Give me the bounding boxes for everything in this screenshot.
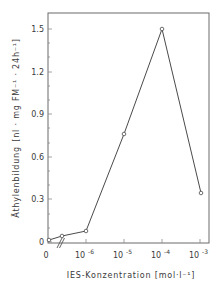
svg-text:10: 10: [189, 251, 199, 260]
data-point: [47, 238, 51, 242]
svg-text:10: 10: [113, 251, 123, 260]
y-axis-title: Äthylenbildung [nl · mg FM⁻¹ · 24h⁻¹]: [11, 38, 21, 217]
x-tick-labels: 0 10 -6 10 -5 10 -4 10 -3: [43, 248, 208, 260]
data-point: [84, 229, 88, 233]
y-tick-label: 0.9: [31, 110, 44, 119]
plot-frame: [48, 13, 209, 243]
y-axis-title-unit: [nl · mg FM⁻¹ · 24h⁻¹]: [12, 38, 21, 141]
data-point: [199, 191, 203, 195]
svg-text:10: 10: [151, 251, 161, 260]
x-tick-label: 10 -3: [189, 248, 208, 260]
data-point: [60, 234, 64, 238]
svg-text:10: 10: [75, 251, 85, 260]
y-tick-labels: 0 0.3 0.6 0.9 1.2 1.5: [31, 25, 44, 247]
data-markers: [47, 27, 203, 242]
y-tick-label: 1.5: [31, 25, 44, 34]
x-tick-label: 10 -6: [75, 248, 94, 260]
y-axis-ticks: [48, 29, 52, 242]
x-tick-label: 10 -5: [113, 248, 132, 260]
data-point: [160, 27, 164, 31]
x-tick-label: 0: [43, 251, 48, 260]
svg-text:-3: -3: [202, 248, 208, 255]
svg-text:-4: -4: [164, 248, 170, 255]
x-axis-title: IES-Konzentration [mol·l⁻¹]: [67, 271, 196, 280]
y-axis-title-main: Äthylenbildung: [11, 146, 21, 218]
line-chart: 0 0.3 0.6 0.9 1.2 1.5 0 10 -6 10 -5 10 -…: [0, 0, 221, 289]
x-axis-ticks: [86, 239, 200, 243]
svg-text:-6: -6: [88, 248, 94, 255]
x-tick-label: 10 -4: [151, 248, 170, 260]
y-tick-label: 0.6: [31, 153, 44, 162]
y-tick-label: 0.3: [31, 195, 44, 204]
svg-text:-5: -5: [126, 248, 132, 255]
y-tick-label: 0: [39, 238, 44, 247]
data-point: [122, 132, 126, 136]
y-tick-label: 1.2: [31, 68, 44, 77]
